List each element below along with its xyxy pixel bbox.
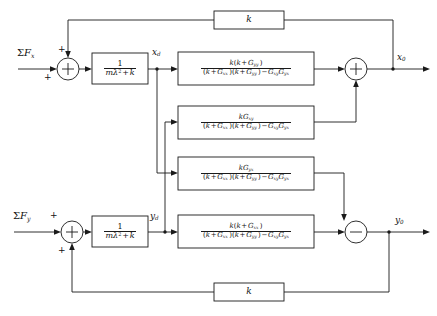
arrowhead-gxy-input [171,119,178,125]
box-cross-coupling-yx [178,157,314,190]
block-diagram-canvas: k 1 mλ2 + k k(k + Gyy ) (k + Gxx )(k + G… [0,0,437,316]
arrowhead-direct-y [171,229,178,235]
box-feedback-bottom [214,283,284,301]
arrowhead-sum-y-output [338,229,345,235]
arrowhead-output-y [423,229,430,235]
arrowhead-plant-y [85,229,92,235]
box-direct-path-y [178,215,314,248]
arrowhead-plant-x [85,66,92,72]
wire-gxy-to-sumx [314,86,356,122]
arrowhead-input-x [50,66,57,72]
box-plant-x [92,53,148,84]
arrowhead-gyx-to-sumy [341,214,347,221]
wire-feedback-top-to-sumx [68,20,214,52]
wire-feedback-bottom-to-sumy [72,249,214,292]
box-feedback-top [214,11,284,29]
arrowhead-feedback-top-sum [65,51,71,58]
arrowhead-sum-x-output [338,66,345,72]
arrowhead-gyx-input [171,170,178,176]
box-cross-coupling-xy [178,106,314,139]
wire-gyx-to-sumy [314,173,344,215]
box-plant-y [92,216,148,247]
arrowhead-output-x [423,66,430,72]
arrowhead-input-y [54,229,61,235]
arrowhead-direct-x [171,66,178,72]
wire-xd-down-to-gyx [157,69,172,173]
box-direct-path-x [178,52,314,85]
arrowhead-gxy-to-sumx [353,80,359,87]
wire-yd-up-to-gxy [165,122,172,232]
arrowhead-feedback-bottom-sum [69,243,75,250]
wire-layer [0,0,437,316]
